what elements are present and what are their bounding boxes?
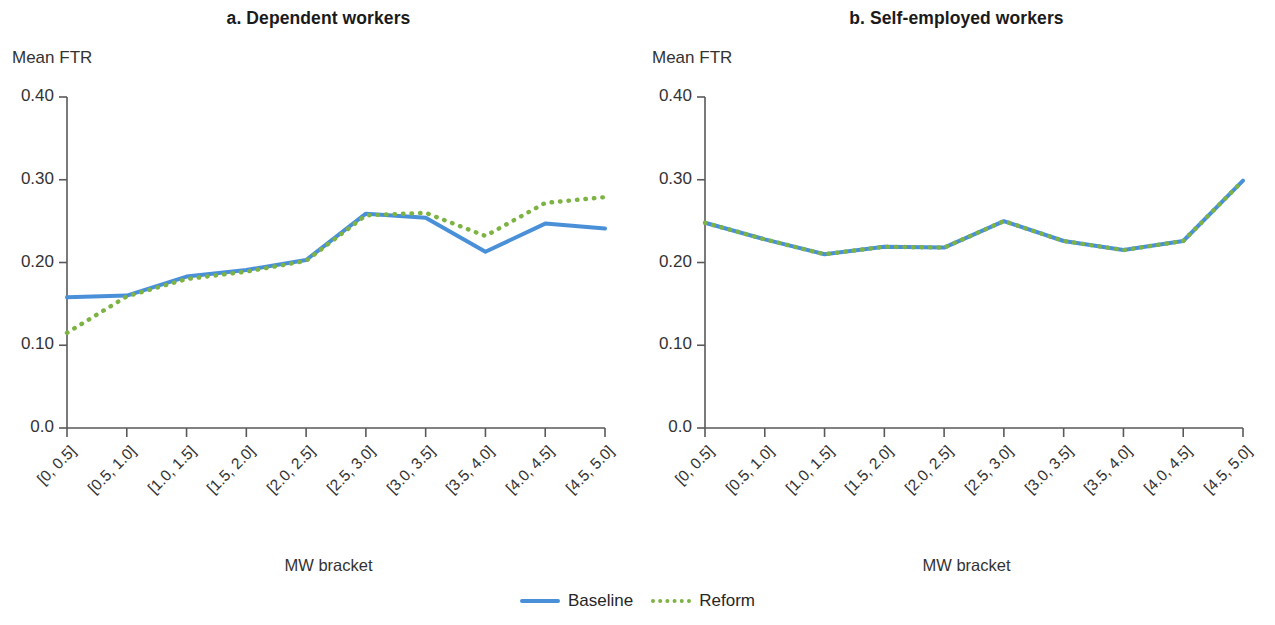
legend-entry-reform: Reform xyxy=(651,592,755,609)
series-line-baseline xyxy=(67,214,605,298)
panel-b-x-axis-title: MW bracket xyxy=(638,556,1275,575)
y-tick-label: 0.30 xyxy=(0,169,54,189)
legend-swatch-baseline-icon xyxy=(520,599,560,603)
panel-b-plot-area xyxy=(638,0,1275,470)
chart-legend: Baseline Reform xyxy=(0,592,1275,609)
y-tick-label: 0.0 xyxy=(0,417,54,437)
panel-a-plot-area xyxy=(0,0,637,470)
y-tick-label: 0.10 xyxy=(0,334,54,354)
legend-swatch-reform-icon xyxy=(651,599,691,603)
y-tick-label: 0.40 xyxy=(0,86,54,106)
series-line-reform xyxy=(67,197,605,333)
y-tick-label: 0.30 xyxy=(638,169,692,189)
figure-two-panel-line-chart: a. Dependent workers Mean FTR MW bracket… xyxy=(0,0,1275,625)
y-tick-label: 0.20 xyxy=(638,252,692,272)
legend-label-baseline: Baseline xyxy=(568,592,633,609)
chart-panel-b: b. Self-employed workers Mean FTR MW bra… xyxy=(638,0,1275,590)
y-tick-label: 0.20 xyxy=(0,252,54,272)
legend-label-reform: Reform xyxy=(699,592,755,609)
y-tick-label: 0.0 xyxy=(638,417,692,437)
y-tick-label: 0.40 xyxy=(638,86,692,106)
chart-panel-a: a. Dependent workers Mean FTR MW bracket… xyxy=(0,0,637,590)
legend-entry-baseline: Baseline xyxy=(520,592,633,609)
y-tick-label: 0.10 xyxy=(638,334,692,354)
panel-a-x-axis-title: MW bracket xyxy=(0,556,637,575)
